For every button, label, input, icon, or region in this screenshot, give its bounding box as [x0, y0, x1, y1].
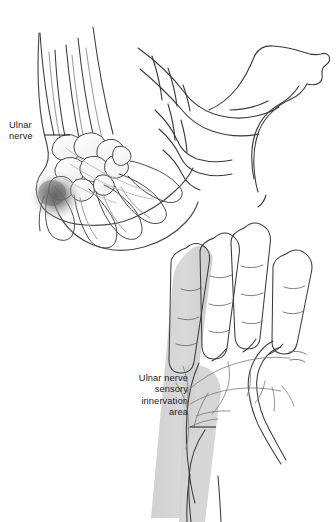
- wrist-skeleton-group: [30, 27, 330, 250]
- proximal-bone-shafts: [40, 27, 113, 146]
- ulnar-nerve-figure: Ulnar nerve Ulnar nerve sensory innervat…: [0, 0, 336, 522]
- distal-humerus-outline: [209, 46, 330, 207]
- anatomy-illustration: [0, 0, 336, 522]
- middle-finger-outline: [231, 223, 271, 349]
- index-finger-outline: [272, 250, 312, 354]
- forearm-banded-bones: [138, 48, 279, 190]
- wrist-right-edge: [218, 476, 221, 522]
- ulnar-nerve-sensory-innervation-area-label: Ulnar nerve sensory innervation area: [106, 373, 188, 419]
- thumb-outline: [257, 347, 286, 460]
- ulnar-nerve-label: Ulnar nerve: [9, 120, 33, 143]
